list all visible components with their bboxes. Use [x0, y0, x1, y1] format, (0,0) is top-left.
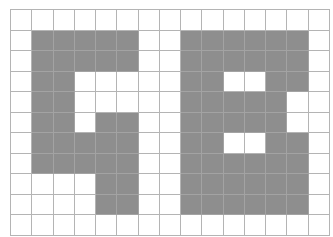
- grid-cell[interactable]: [160, 215, 181, 236]
- grid-cell[interactable]: [181, 51, 202, 72]
- grid-cell[interactable]: [139, 31, 160, 52]
- grid-cell[interactable]: [96, 113, 117, 134]
- grid-cell[interactable]: [202, 174, 223, 195]
- grid-cell[interactable]: [139, 113, 160, 134]
- grid-cell[interactable]: [11, 92, 32, 113]
- grid-cell[interactable]: [287, 72, 308, 93]
- grid-cell[interactable]: [117, 51, 138, 72]
- grid-cell[interactable]: [160, 154, 181, 175]
- grid-cell[interactable]: [75, 113, 96, 134]
- grid-cell[interactable]: [139, 51, 160, 72]
- grid-cell[interactable]: [117, 195, 138, 216]
- grid-cell[interactable]: [309, 113, 330, 134]
- grid-cell[interactable]: [32, 215, 53, 236]
- grid-cell[interactable]: [11, 10, 32, 31]
- grid-cell[interactable]: [117, 154, 138, 175]
- grid-cell[interactable]: [245, 51, 266, 72]
- grid-cell[interactable]: [181, 72, 202, 93]
- grid-cell[interactable]: [11, 113, 32, 134]
- grid-cell[interactable]: [245, 195, 266, 216]
- grid-cell[interactable]: [181, 92, 202, 113]
- grid-cell[interactable]: [75, 92, 96, 113]
- grid-cell[interactable]: [266, 10, 287, 31]
- grid-cell[interactable]: [160, 133, 181, 154]
- grid-cell[interactable]: [96, 174, 117, 195]
- grid-cell[interactable]: [266, 31, 287, 52]
- grid-cell[interactable]: [32, 92, 53, 113]
- grid-cell[interactable]: [54, 92, 75, 113]
- grid-cell[interactable]: [139, 72, 160, 93]
- grid-cell[interactable]: [54, 51, 75, 72]
- grid-cell[interactable]: [245, 92, 266, 113]
- grid-cell[interactable]: [181, 174, 202, 195]
- grid-cell[interactable]: [202, 92, 223, 113]
- grid-cell[interactable]: [139, 133, 160, 154]
- grid-cell[interactable]: [266, 195, 287, 216]
- grid-cell[interactable]: [54, 31, 75, 52]
- grid-cell[interactable]: [287, 174, 308, 195]
- grid-cell[interactable]: [117, 10, 138, 31]
- grid-cell[interactable]: [245, 10, 266, 31]
- grid-cell[interactable]: [32, 174, 53, 195]
- grid-cell[interactable]: [139, 10, 160, 31]
- grid-cell[interactable]: [32, 72, 53, 93]
- grid-cell[interactable]: [181, 31, 202, 52]
- grid-cell[interactable]: [181, 10, 202, 31]
- grid-cell[interactable]: [245, 31, 266, 52]
- grid-cell[interactable]: [96, 51, 117, 72]
- grid-cell[interactable]: [202, 195, 223, 216]
- grid-cell[interactable]: [202, 113, 223, 134]
- grid-cell[interactable]: [75, 174, 96, 195]
- grid-cell[interactable]: [11, 154, 32, 175]
- grid-cell[interactable]: [287, 195, 308, 216]
- grid-cell[interactable]: [224, 133, 245, 154]
- grid-cell[interactable]: [54, 215, 75, 236]
- grid-cell[interactable]: [139, 174, 160, 195]
- grid-cell[interactable]: [224, 92, 245, 113]
- grid-cell[interactable]: [117, 174, 138, 195]
- grid-cell[interactable]: [266, 215, 287, 236]
- grid-cell[interactable]: [266, 133, 287, 154]
- grid-cell[interactable]: [96, 92, 117, 113]
- grid-cell[interactable]: [309, 51, 330, 72]
- grid-cell[interactable]: [202, 154, 223, 175]
- grid-cell[interactable]: [266, 92, 287, 113]
- grid-cell[interactable]: [75, 10, 96, 31]
- grid-cell[interactable]: [224, 113, 245, 134]
- grid-cell[interactable]: [96, 215, 117, 236]
- grid-cell[interactable]: [160, 92, 181, 113]
- grid-cell[interactable]: [96, 154, 117, 175]
- grid-cell[interactable]: [309, 154, 330, 175]
- grid-cell[interactable]: [11, 51, 32, 72]
- grid-cell[interactable]: [287, 215, 308, 236]
- grid-cell[interactable]: [181, 133, 202, 154]
- grid-cell[interactable]: [224, 195, 245, 216]
- grid-cell[interactable]: [309, 31, 330, 52]
- grid-cell[interactable]: [32, 10, 53, 31]
- grid-cell[interactable]: [202, 72, 223, 93]
- grid-cell[interactable]: [287, 10, 308, 31]
- grid-cell[interactable]: [224, 154, 245, 175]
- grid-cell[interactable]: [224, 72, 245, 93]
- grid-cell[interactable]: [117, 72, 138, 93]
- grid-cell[interactable]: [309, 72, 330, 93]
- grid-cell[interactable]: [54, 113, 75, 134]
- grid-cell[interactable]: [224, 215, 245, 236]
- grid-cell[interactable]: [96, 10, 117, 31]
- grid-cell[interactable]: [75, 215, 96, 236]
- grid-cell[interactable]: [287, 51, 308, 72]
- grid-cell[interactable]: [11, 215, 32, 236]
- grid-cell[interactable]: [287, 92, 308, 113]
- grid-cell[interactable]: [309, 215, 330, 236]
- grid-cell[interactable]: [245, 215, 266, 236]
- grid-cell[interactable]: [117, 133, 138, 154]
- grid-cell[interactable]: [139, 195, 160, 216]
- grid-cell[interactable]: [287, 113, 308, 134]
- grid-cell[interactable]: [117, 31, 138, 52]
- grid-cell[interactable]: [160, 10, 181, 31]
- grid-cell[interactable]: [96, 133, 117, 154]
- grid-cell[interactable]: [75, 154, 96, 175]
- grid-cell[interactable]: [96, 195, 117, 216]
- grid-cell[interactable]: [54, 133, 75, 154]
- grid-cell[interactable]: [139, 154, 160, 175]
